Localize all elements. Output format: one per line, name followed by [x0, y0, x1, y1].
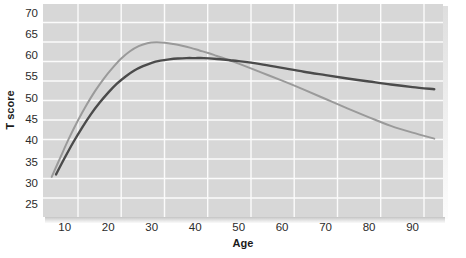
- x-tick-label: 80: [363, 221, 376, 233]
- x-tick-label: 60: [276, 221, 289, 233]
- x-tick-label: 90: [406, 221, 419, 233]
- y-tick-label: 45: [25, 113, 38, 125]
- chart-figure: 25303540455055606570 102030405060708090 …: [0, 0, 466, 258]
- y-tick-label: 50: [25, 92, 38, 104]
- x-tick-label: 50: [232, 221, 245, 233]
- x-tick-label: 10: [58, 221, 71, 233]
- x-tick-label: 40: [189, 221, 202, 233]
- y-tick-label: 60: [25, 49, 38, 61]
- y-tick-label: 70: [25, 7, 38, 19]
- plot-area-background: [43, 4, 443, 217]
- y-tick-label: 30: [25, 177, 38, 189]
- x-axis-title: Age: [233, 237, 254, 249]
- y-tick-label: 65: [25, 28, 38, 40]
- y-tick-label: 25: [25, 198, 38, 210]
- x-axis-tick-labels: 102030405060708090: [58, 221, 419, 233]
- y-axis-title: T score: [4, 90, 16, 129]
- y-tick-label: 35: [25, 156, 38, 168]
- x-tick-label: 30: [145, 221, 158, 233]
- plot-right-shadow: [443, 6, 448, 219]
- x-tick-label: 70: [319, 221, 332, 233]
- y-tick-label: 40: [25, 134, 38, 146]
- y-tick-label: 55: [25, 70, 38, 82]
- line-chart: 25303540455055606570 102030405060708090 …: [0, 0, 466, 258]
- x-tick-label: 20: [102, 221, 115, 233]
